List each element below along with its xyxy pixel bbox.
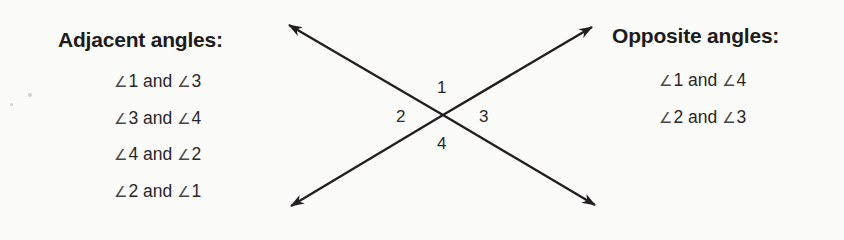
- opposite-pair: ∠1 and ∠4: [659, 70, 746, 107]
- pair-second-angle: 3: [737, 107, 747, 127]
- pair-first-angle: 1: [128, 71, 138, 91]
- line-a: [289, 25, 443, 115]
- adjacent-pair: ∠2 and ∠1: [114, 181, 201, 213]
- angle-icon: ∠: [114, 183, 127, 201]
- pair-conjunction: and: [143, 71, 172, 91]
- angle-label-4: 4: [437, 135, 446, 153]
- angle-icon: ∠: [659, 72, 672, 90]
- angle-icon: ∠: [177, 73, 190, 91]
- line-a-ray: [443, 115, 595, 205]
- pair-second-angle: 2: [192, 144, 202, 164]
- pair-first-angle: 3: [128, 108, 138, 128]
- pair-second-angle: 1: [192, 181, 202, 201]
- angle-icon: ∠: [114, 110, 127, 128]
- adjacent-angles-list: ∠1 and ∠3 ∠3 and ∠4 ∠4 and ∠2 ∠2 and ∠1: [114, 71, 201, 212]
- pair-conjunction: and: [688, 107, 717, 127]
- angle-label-2: 2: [396, 108, 405, 126]
- scan-speck: [10, 103, 13, 106]
- angle-icon: ∠: [722, 72, 735, 90]
- adjacent-angles-heading: Adjacent angles:: [58, 28, 223, 52]
- angle-icon: ∠: [722, 109, 735, 127]
- adjacent-pair: ∠4 and ∠2: [114, 144, 201, 181]
- pair-first-angle: 2: [673, 107, 683, 127]
- opposite-pair: ∠2 and ∠3: [659, 107, 746, 144]
- adjacent-pair: ∠3 and ∠4: [114, 108, 201, 145]
- adjacent-pair: ∠1 and ∠3: [114, 71, 201, 108]
- angle-label-3: 3: [479, 108, 488, 126]
- angle-icon: ∠: [114, 73, 127, 91]
- pair-second-angle: 4: [192, 108, 202, 128]
- pair-first-angle: 2: [128, 181, 138, 201]
- angle-icon: ∠: [177, 183, 190, 201]
- pair-conjunction: and: [143, 108, 172, 128]
- pair-second-angle: 3: [192, 71, 202, 91]
- pair-first-angle: 1: [673, 70, 683, 90]
- angle-icon: ∠: [114, 146, 127, 164]
- angle-icon: ∠: [177, 110, 190, 128]
- scan-speck: [28, 93, 32, 97]
- pair-first-angle: 4: [128, 144, 138, 164]
- pair-conjunction: and: [143, 144, 172, 164]
- angle-icon: ∠: [177, 146, 190, 164]
- pair-second-angle: 4: [737, 70, 747, 90]
- line-b-ray: [291, 115, 443, 206]
- angle-icon: ∠: [659, 109, 672, 127]
- pair-conjunction: and: [688, 70, 717, 90]
- pair-conjunction: and: [143, 181, 172, 201]
- opposite-angles-heading: Opposite angles:: [612, 24, 779, 48]
- angle-label-1: 1: [437, 79, 446, 97]
- opposite-angles-list: ∠1 and ∠4 ∠2 and ∠3: [659, 70, 746, 143]
- line-b: [443, 27, 592, 115]
